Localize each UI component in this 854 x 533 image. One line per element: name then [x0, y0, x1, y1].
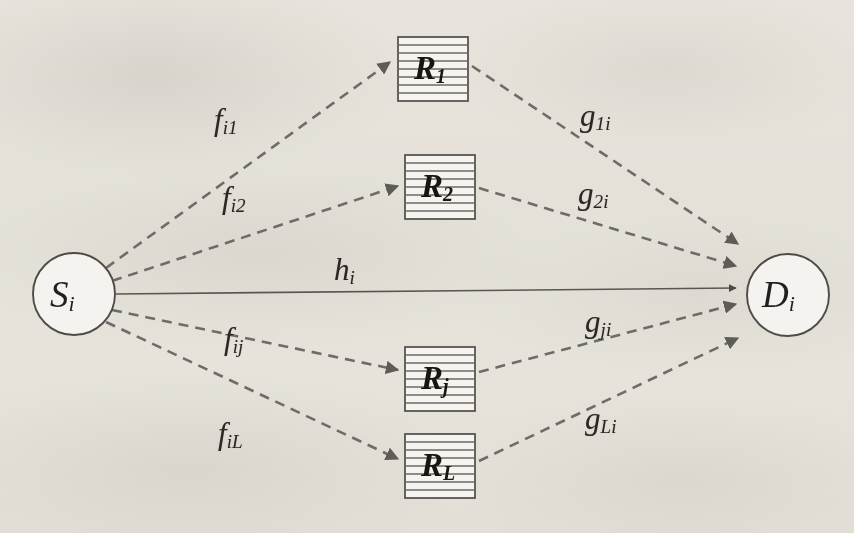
edge-label-h-i-sub: i — [350, 267, 355, 288]
edge-label-f-iL-base: f — [218, 416, 227, 451]
relay-r2-label-sub: 2 — [443, 183, 453, 205]
relay-rl-label-base: R — [421, 447, 443, 483]
edge-label-f-i1-sub: i1 — [223, 117, 238, 138]
edge-label-f-i2-base: f — [222, 180, 231, 215]
edge-label-g-2i-sub: 2i — [594, 191, 609, 212]
edge-label-f-ij-base: f — [224, 321, 233, 356]
edge-label-g-ji: gji — [585, 306, 611, 339]
source-label-sub: i — [69, 291, 75, 316]
edge-label-g-1i: g1i — [580, 100, 611, 133]
source-label-base: S — [50, 274, 69, 315]
edge-label-g-Li: gLi — [585, 403, 617, 436]
edge-label-f-ij-sub: ij — [233, 336, 244, 357]
edge-label-g-Li-sub: Li — [601, 416, 617, 437]
diagram-canvas: Si Di R1 R2 Rj RL fi1 fi2 hi fij fiL g1i… — [0, 0, 854, 533]
source-node-label: Si — [50, 276, 75, 315]
edge-label-h-i-base: h — [334, 252, 350, 287]
edge-label-g-1i-sub: 1i — [596, 113, 611, 134]
destination-label-base: D — [762, 274, 789, 315]
relay-r2-label: R2 — [421, 170, 453, 204]
edge-label-g-1i-base: g — [580, 98, 596, 133]
relay-rj-label: Rj — [421, 362, 449, 396]
edge-relay1-to-destination — [472, 66, 738, 244]
edge-label-g-ji-base: g — [585, 304, 601, 339]
relay-r1-label-base: R — [414, 50, 436, 86]
edge-label-h-i: hi — [334, 254, 355, 287]
edge-label-f-iL-sub: iL — [227, 431, 243, 452]
relay-r1-label: R1 — [414, 52, 446, 86]
edge-label-g-Li-base: g — [585, 401, 601, 436]
edge-label-f-i2: fi2 — [222, 182, 246, 215]
relay-rl-label: RL — [421, 449, 455, 483]
edge-label-f-i2-sub: i2 — [231, 195, 246, 216]
edge-label-f-i1: fi1 — [214, 104, 238, 137]
edge-source-to-relayL — [106, 322, 398, 459]
relay-rj-label-sub: j — [443, 375, 449, 397]
edge-label-f-iL: fiL — [218, 418, 243, 451]
relay-r1-label-sub: 1 — [436, 65, 446, 87]
edge-label-f-ij: fij — [224, 323, 244, 356]
destination-node-label: Di — [762, 276, 795, 315]
edge-label-g-2i-base: g — [578, 176, 594, 211]
edge-source-to-destination-direct — [116, 288, 736, 294]
relay-rl-label-sub: L — [443, 462, 455, 484]
edge-relayL-to-destination — [479, 338, 738, 461]
edge-label-g-2i: g2i — [578, 178, 609, 211]
destination-label-sub: i — [789, 291, 795, 316]
edge-source-to-relayj — [112, 310, 398, 370]
relay-rj-label-base: R — [421, 360, 443, 396]
edge-label-g-ji-sub: ji — [601, 319, 612, 340]
edge-label-f-i1-base: f — [214, 102, 223, 137]
relay-r2-label-base: R — [421, 168, 443, 204]
